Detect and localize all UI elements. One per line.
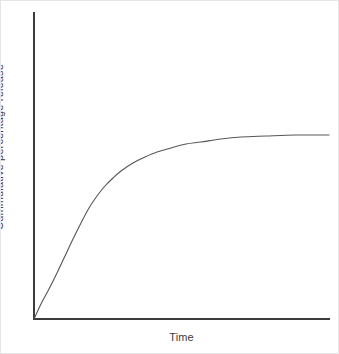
plot-area xyxy=(1,1,339,354)
plot-background xyxy=(1,1,339,354)
figure-container: Cummulative percentage release Time xyxy=(0,0,339,354)
